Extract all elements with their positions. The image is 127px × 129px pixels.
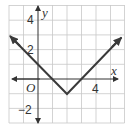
curve-left-arrow — [10, 36, 20, 46]
x-tick-4: 4 — [92, 82, 99, 96]
origin-label: O — [26, 80, 36, 95]
coordinate-graph: y x O 4 2 −2 4 — [0, 0, 127, 129]
y-tick-4: 4 — [27, 13, 34, 27]
y-tick-neg2: −2 — [18, 103, 32, 117]
curve-right-arrow — [112, 38, 122, 48]
x-axis-label: x — [110, 63, 117, 78]
y-tick-2: 2 — [27, 43, 34, 57]
y-axis-label: y — [40, 5, 48, 20]
